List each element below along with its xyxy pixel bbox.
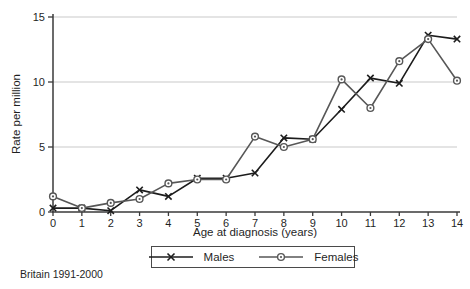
legend-label-females: Females	[314, 251, 358, 263]
females-line-marker-icon	[258, 251, 304, 263]
legend-label-males: Males	[204, 251, 235, 263]
svg-text:5: 5	[39, 141, 45, 153]
legend-item-males: Males	[148, 251, 235, 263]
males-line-marker-icon	[148, 251, 194, 263]
source-caption: Britain 1991-2000	[20, 268, 103, 280]
x-axis-title: Age at diagnosis (years)	[53, 226, 457, 238]
legend-item-females: Females	[258, 251, 358, 263]
y-axis-title: Rate per million	[10, 74, 22, 154]
svg-text:15: 15	[33, 11, 45, 23]
line-chart-canvas: 05101501234567891011121314	[0, 0, 470, 242]
chart-figure: 05101501234567891011121314 Rate per mill…	[0, 0, 470, 289]
svg-text:10: 10	[33, 76, 45, 88]
svg-text:0: 0	[39, 206, 45, 218]
legend: Males Females	[151, 246, 355, 268]
